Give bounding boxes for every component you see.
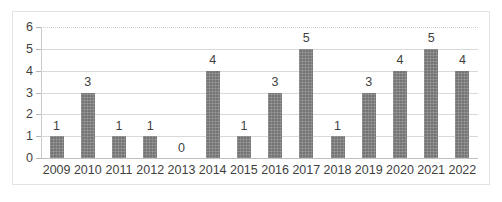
bar-slot: 1 xyxy=(322,27,353,158)
bar-value-label: 3 xyxy=(365,76,372,89)
bar xyxy=(237,136,251,158)
x-axis-label: 2014 xyxy=(197,163,228,179)
x-axis-label: 2013 xyxy=(166,163,197,179)
bar-slot: 4 xyxy=(197,27,228,158)
x-axis-label: 2012 xyxy=(135,163,166,179)
bar-value-label: 1 xyxy=(334,120,341,133)
bar-value-label: 1 xyxy=(116,120,123,133)
x-axis-label: 2010 xyxy=(72,163,103,179)
y-axis-label: 0 xyxy=(5,152,33,165)
bar-slot: 3 xyxy=(260,27,291,158)
x-axis-label: 2016 xyxy=(260,163,291,179)
bar-slot: 5 xyxy=(416,27,447,158)
bar-value-label: 4 xyxy=(209,54,216,67)
x-axis-label: 2022 xyxy=(447,163,478,179)
y-axis-label: 2 xyxy=(5,108,33,121)
x-axis-label: 2009 xyxy=(41,163,72,179)
bar xyxy=(424,49,438,158)
bar-value-label: 1 xyxy=(240,120,247,133)
bar xyxy=(331,136,345,158)
bar xyxy=(299,49,313,158)
bar-value-label: 3 xyxy=(84,76,91,89)
bar xyxy=(455,71,469,158)
bar-slot: 1 xyxy=(228,27,259,158)
bar xyxy=(206,71,220,158)
x-axis-label: 2017 xyxy=(291,163,322,179)
x-axis-label: 2018 xyxy=(322,163,353,179)
bar xyxy=(50,136,64,158)
y-axis-label: 1 xyxy=(5,130,33,143)
bar-value-label: 0 xyxy=(178,142,185,155)
bar-slot: 4 xyxy=(384,27,415,158)
bar-slot: 3 xyxy=(72,27,103,158)
bar-value-label: 5 xyxy=(303,32,310,45)
bar-slot: 3 xyxy=(353,27,384,158)
bar-value-label: 5 xyxy=(428,32,435,45)
x-axis-label: 2011 xyxy=(103,163,134,179)
bar-slot: 0 xyxy=(166,27,197,158)
y-axis-label: 5 xyxy=(5,43,33,56)
bar xyxy=(143,136,157,158)
plot-area: 13110413513454 xyxy=(41,27,478,158)
y-axis-label: 6 xyxy=(5,21,33,34)
bar-slot: 1 xyxy=(135,27,166,158)
bar-value-label: 1 xyxy=(147,120,154,133)
bar-value-label: 3 xyxy=(272,76,279,89)
x-axis-label: 2015 xyxy=(228,163,259,179)
x-axis-label: 2021 xyxy=(416,163,447,179)
bar xyxy=(362,93,376,159)
bar xyxy=(268,93,282,159)
bar-value-label: 1 xyxy=(53,120,60,133)
y-axis-label: 3 xyxy=(5,86,33,99)
bar-chart-figure: 0123456 13110413513454 20092010201120122… xyxy=(0,0,502,202)
bar xyxy=(393,71,407,158)
bar xyxy=(112,136,126,158)
gridline-0 xyxy=(41,158,478,159)
y-axis-label: 4 xyxy=(5,64,33,77)
bar xyxy=(81,93,95,159)
x-axis-label: 2020 xyxy=(384,163,415,179)
x-axis-tick-labels: 2009201020112012201320142015201620172018… xyxy=(41,163,478,183)
bar-value-label: 4 xyxy=(459,54,466,67)
bar-slot: 5 xyxy=(291,27,322,158)
bar-slot: 1 xyxy=(41,27,72,158)
x-axis-label: 2019 xyxy=(353,163,384,179)
y-axis-tick-labels: 0123456 xyxy=(0,0,33,202)
bar-slot: 1 xyxy=(103,27,134,158)
bar-slot: 4 xyxy=(447,27,478,158)
bar-value-label: 4 xyxy=(396,54,403,67)
